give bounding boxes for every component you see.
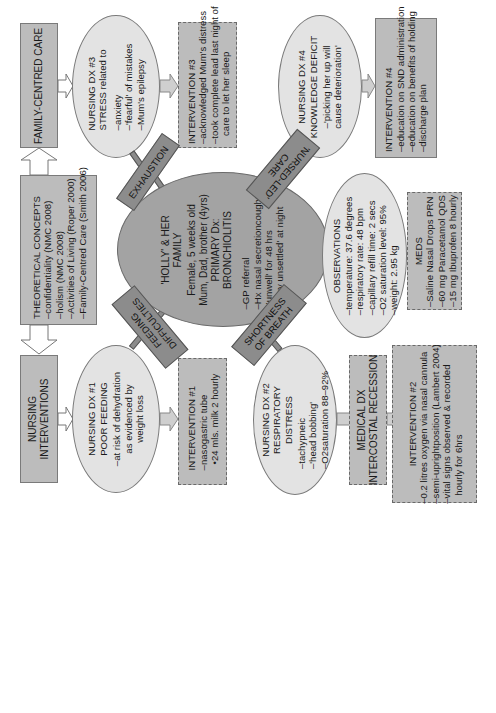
ndx3-item: –'fearful' of mistakes — [123, 43, 134, 130]
nursing-interventions-label: NURSING — [27, 396, 39, 442]
meds-item: –60 mg Paracetamol QDS — [435, 195, 446, 307]
meds-item: –Saline Nasal Drops PRN — [423, 195, 434, 307]
ndx1-title: POOR FEEDING — [98, 372, 109, 466]
nursing-dx-3-ellipse: NURSING DX #3 STRESS related to –anxiety… — [72, 15, 160, 158]
concept-item: –Activities of Living (Roper 2000) — [64, 175, 75, 319]
arrow-to-family-centred-care — [21, 148, 57, 175]
int3-item: care to let her sleep — [219, 22, 230, 144]
medical-dx-box: MEDICAL DX INTERCOSTAL RECESSION — [349, 355, 387, 485]
int4-item: –education on benefits of holding — [406, 18, 417, 152]
ndx3-title: STRESS related to — [97, 43, 108, 130]
observation-item: –respiratory rate: 48 bpm — [353, 196, 364, 314]
family-centred-care-box: FAMILY-CENTRED CARE — [20, 23, 58, 148]
int4-item: –education on SND administration — [395, 18, 406, 152]
medical-dx-label: MEDICAL DX — [356, 390, 368, 451]
int1-title: INTERVENTION #1 — [185, 373, 196, 470]
ndx4-item: cause deterioration' — [332, 35, 343, 137]
ndx1-item: –at risk of dehydration — [111, 372, 122, 466]
ndx1-item: as evidenced by — [123, 372, 134, 466]
observations-ellipse: OBSERVATIONS –temperature: 37.6 degrees … — [322, 173, 407, 338]
observation-item: –capillary refill time: 2 secs — [365, 196, 376, 314]
observations-title: OBSERVATIONS — [330, 196, 341, 314]
meds-item: –15 mg Ibuprofen 8 hourly — [446, 195, 457, 307]
ndx2-item: –O2saturation 88–92% — [319, 371, 330, 469]
ndx3-title: NURSING DX #3 — [86, 43, 97, 130]
ndx2-item: –tachypneic — [296, 371, 307, 469]
concept-item: –holism (NMC 2008) — [53, 175, 64, 319]
int3-title: INTERVENTION #3 — [185, 22, 196, 144]
intervention-1-box: INTERVENTION #1 –nasogastric tube •24 ml… — [178, 358, 227, 485]
center-line: BRONCHIOLITIS — [222, 211, 234, 289]
int4-item: –discharge plan — [417, 18, 428, 152]
center-line: Mum, Dad, brother (4yrs) — [198, 194, 210, 306]
int2-title: INTERVENTION #2 — [406, 344, 417, 503]
observation-item: –O2 saturation level: 95% — [376, 196, 387, 314]
ndx4-title: NURSING DX #4 — [296, 35, 307, 137]
ndx2-item: –'head bobbing' — [307, 371, 318, 469]
concept-item: –Family-Centred Care (Smith 2006) — [76, 175, 87, 319]
int3-item: –took complete lead last night of — [208, 22, 219, 144]
ndx3-item: –Mum's epilepsy — [135, 43, 146, 130]
ndx4-item: –'picking her up will — [321, 35, 332, 137]
ndx3-item: –anxiety — [112, 43, 123, 130]
nursing-interventions-label: INTERVENTIONS — [39, 379, 51, 460]
center-line: Female, 5 weeks old — [186, 204, 198, 296]
center-line: FAMILY — [172, 232, 184, 267]
ndx2-title: DISTRESS — [283, 371, 294, 469]
ndx4-title: KNOWLEDGE DEFICIT — [308, 35, 319, 137]
meds-title: MEDS — [412, 195, 423, 307]
concept-item: –confidentiality (NMC 2008) — [41, 175, 52, 319]
int4-title: INTERVENTION #4 — [383, 18, 394, 152]
medical-dx-label: INTERCOSTAL RECESSION — [368, 355, 380, 486]
observation-item: –weight: 2.95 kg — [387, 196, 398, 314]
center-line: PRIMARY Dx: — [210, 218, 222, 281]
int2-item: –0.2 litres oxygen via nasal cannula — [417, 344, 428, 503]
ndx1-item: weight loss — [134, 372, 145, 466]
theoretical-concepts-box: THEORETICAL CONCEPTS –confidentiality (N… — [20, 175, 97, 325]
observation-item: –temperature: 37.6 degrees — [342, 196, 353, 314]
center-line: 'HOLLY' & HER — [160, 215, 172, 284]
int1-item: –nasogastric tube — [197, 373, 208, 470]
int2-item: –vital signs observed & recorded — [440, 344, 451, 503]
nursing-dx-1-ellipse: NURSING DX #1 POOR FEEDING –at risk of d… — [72, 345, 160, 493]
arrow-to-nursing-interventions — [21, 325, 57, 354]
nursing-dx-2-ellipse: NURSING DX #2 RESPIRATORY DISTRESS –tach… — [253, 345, 337, 495]
int1-item: •24 mls. milk 2 hourly — [208, 373, 219, 470]
int2-item: –semi-uprightposition (Lambert 2004) — [429, 344, 440, 503]
center-item: –GP referral — [240, 199, 251, 309]
meds-box: MEDS –Saline Nasal Drops PRN –60 mg Para… — [407, 192, 462, 310]
intervention-3-box: INTERVENTION #3 –acknowledged Mum's dist… — [178, 22, 237, 148]
ndx2-title: RESPIRATORY — [271, 371, 282, 469]
ndx1-title: NURSING DX #1 — [86, 372, 97, 466]
intervention-4-box: INTERVENTION #4 –education on SND admini… — [375, 18, 437, 158]
intervention-2-box: INTERVENTION #2 –0.2 litres oxygen via n… — [392, 345, 477, 503]
center-item: –'unwell' for 48 hrs — [263, 199, 274, 309]
int3-item: –acknowledged Mum's distress — [196, 22, 207, 144]
theoretical-concepts-title: THEORETICAL CONCEPTS — [30, 175, 41, 319]
family-centred-care-label: FAMILY-CENTRED CARE — [33, 27, 45, 143]
int2-item: hourly for 6hrs — [452, 344, 463, 503]
ndx2-title: NURSING DX #2 — [260, 371, 271, 469]
center-item: –Hx nasal secretioncough — [252, 199, 263, 309]
nursing-interventions-box: NURSING INTERVENTIONS — [20, 355, 58, 483]
